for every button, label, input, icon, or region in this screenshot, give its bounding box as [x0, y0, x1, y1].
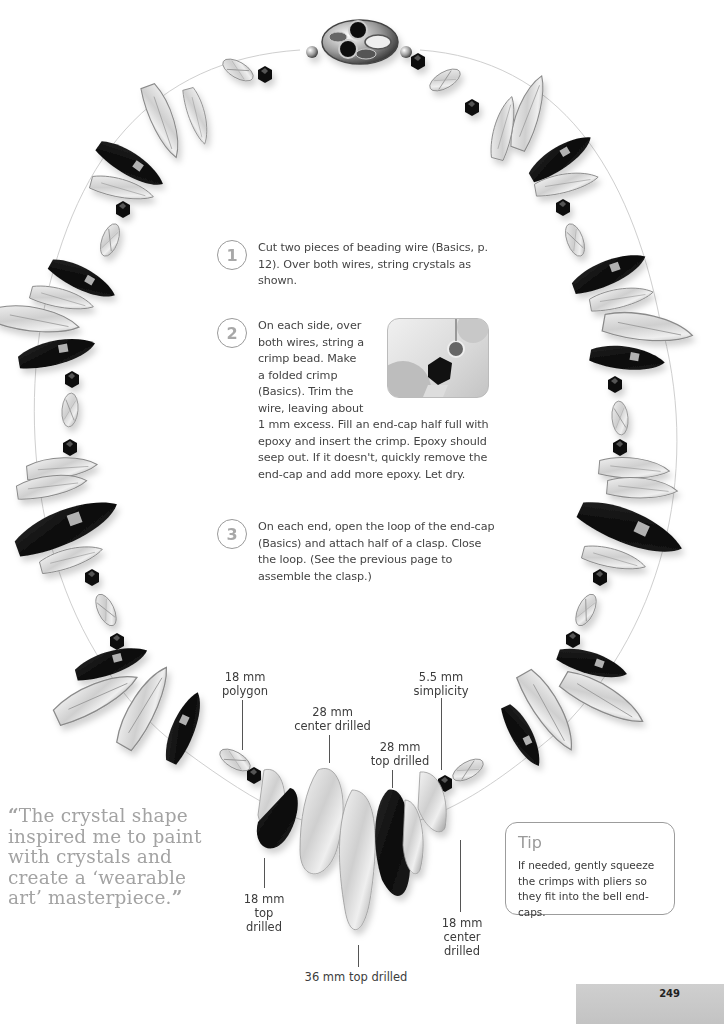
step-1-text: Cut two pieces of beading wire (Basics, …: [258, 240, 498, 290]
step-number-badge: 2: [217, 318, 247, 348]
leader-line: [441, 698, 442, 770]
label-28mm-center-drilled: 28 mm center drilled: [285, 705, 380, 733]
step-2: 2 On each side, over both wires, string …: [217, 318, 387, 417]
step-number-badge: 3: [217, 519, 247, 549]
label-18mm-polygon: 18 mm polygon: [212, 670, 278, 698]
tip-box: Tip If needed, gently squeeze the crimps…: [505, 822, 675, 915]
page-number-tab: 249: [576, 984, 724, 1024]
tip-text: If needed, gently squeeze the crimps wit…: [518, 858, 664, 920]
label-28mm-top-drilled: 28 mm top drilled: [360, 740, 440, 768]
label-5-5mm-simplicity: 5.5 mm simplicity: [408, 670, 474, 698]
step-2-text-wrapped: On each side, over both wires, string a …: [258, 318, 364, 417]
leader-line: [242, 700, 243, 750]
step-3: 3 On each end, open the loop of the end-…: [217, 519, 517, 585]
leader-line: [358, 945, 359, 967]
close-quote-mark: ”: [172, 887, 183, 908]
label-18mm-center-drilled: 18 mm center drilled: [434, 916, 490, 958]
tip-title: Tip: [518, 833, 664, 852]
leader-line: [264, 858, 265, 888]
inset-photo-crimp-closeup: [387, 318, 489, 398]
leader-line: [329, 735, 330, 763]
leader-line: [460, 840, 461, 912]
step-1: 1 Cut two pieces of beading wire (Basics…: [217, 240, 517, 290]
label-36mm-top-drilled: 36 mm top drilled: [296, 970, 416, 984]
step-3-text: On each end, open the loop of the end-ca…: [258, 519, 498, 585]
label-18mm-top-drilled: 18 mm top drilled: [236, 892, 292, 934]
step-number-badge: 1: [217, 240, 247, 270]
page-number: 249: [659, 988, 680, 999]
step-2-text-continued: 1 mm excess. Fill an end-cap half full w…: [258, 417, 503, 483]
leader-line: [392, 770, 393, 788]
open-quote-mark: “: [8, 805, 19, 826]
pull-quote: “The crystal shape inspired me to paint …: [8, 806, 208, 909]
